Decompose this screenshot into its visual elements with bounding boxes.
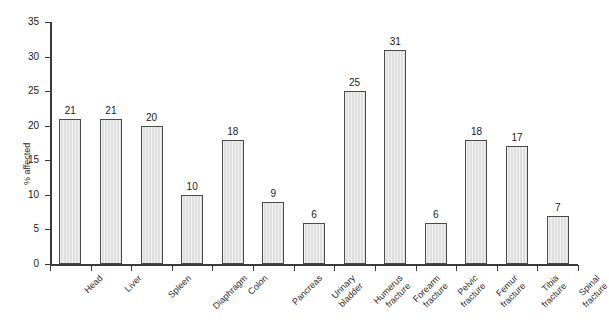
- x-tick-mark: [172, 265, 173, 271]
- x-tick-mark: [50, 265, 51, 271]
- bar: [344, 91, 366, 264]
- x-tick-mark: [212, 265, 213, 271]
- x-axis-category-label: Pancreas: [291, 273, 325, 307]
- x-axis-category-label: Humerusfracture: [371, 273, 412, 314]
- bar-value-label: 21: [50, 105, 90, 116]
- y-tick-label: 0: [17, 259, 39, 269]
- bar-value-label: 10: [172, 181, 212, 192]
- bar: [100, 119, 122, 264]
- bar: [181, 195, 203, 264]
- x-tick-mark: [375, 265, 376, 271]
- x-tick-mark: [578, 265, 579, 271]
- x-axis-category-label: Liver: [123, 273, 144, 294]
- bar-value-label: 17: [497, 132, 537, 143]
- bar: [547, 216, 569, 264]
- bar-value-label: 6: [294, 209, 334, 220]
- bar-value-label: 18: [213, 126, 253, 137]
- bar-value-label: 6: [416, 209, 456, 220]
- x-axis-category-label: Spleen: [166, 273, 193, 300]
- x-tick-mark: [497, 265, 498, 271]
- x-tick-mark: [131, 265, 132, 271]
- x-tick-mark: [294, 265, 295, 271]
- x-tick-mark: [91, 265, 92, 271]
- x-axis-category-label: Tibiafracture: [532, 273, 568, 309]
- y-tick-mark: [45, 57, 50, 58]
- y-tick-mark: [45, 160, 50, 161]
- x-tick-mark: [416, 265, 417, 271]
- bar-value-label: 18: [456, 126, 496, 137]
- x-axis-category-label: Forearmfracture: [411, 273, 450, 312]
- bar: [141, 126, 163, 264]
- x-axis-line: [50, 264, 578, 266]
- x-axis-category-label: Diaphragm: [211, 273, 250, 312]
- y-tick-label: 30: [17, 52, 39, 62]
- bar-value-label: 31: [375, 36, 415, 47]
- bar-value-label: 25: [335, 77, 375, 88]
- y-tick-mark: [45, 126, 50, 127]
- bar-value-label: 9: [253, 188, 293, 199]
- y-tick-mark: [45, 22, 50, 23]
- x-tick-mark: [253, 265, 254, 271]
- bar: [425, 223, 447, 264]
- x-tick-mark: [456, 265, 457, 271]
- y-axis-line: [50, 22, 52, 264]
- y-tick-mark: [45, 91, 50, 92]
- x-axis-category-label: Femurfracture: [491, 273, 527, 309]
- bar-value-label: 21: [91, 105, 131, 116]
- y-tick-label: 10: [17, 190, 39, 200]
- bar: [384, 50, 406, 264]
- bar: [59, 119, 81, 264]
- bar-value-label: 7: [538, 202, 578, 213]
- bar: [222, 140, 244, 264]
- bar: [303, 223, 325, 264]
- bar: [465, 140, 487, 264]
- bar-value-label: 20: [132, 112, 172, 123]
- bar: [262, 202, 284, 264]
- x-axis-category-label: Pelvicfracture: [451, 273, 487, 309]
- x-axis-category-label: Urinarybladder: [329, 273, 365, 309]
- x-tick-mark: [537, 265, 538, 271]
- x-axis-category-label: Colon: [246, 273, 270, 297]
- y-tick-mark: [45, 195, 50, 196]
- x-axis-category-label: Head: [83, 273, 106, 296]
- y-tick-label: 15: [17, 155, 39, 165]
- bar: [506, 146, 528, 264]
- y-tick-label: 20: [17, 121, 39, 131]
- y-tick-mark: [45, 229, 50, 230]
- x-axis-category-label: Spinalfracture: [573, 273, 609, 309]
- x-tick-mark: [334, 265, 335, 271]
- y-tick-label: 25: [17, 86, 39, 96]
- y-tick-label: 5: [17, 224, 39, 234]
- y-tick-label: 35: [17, 17, 39, 27]
